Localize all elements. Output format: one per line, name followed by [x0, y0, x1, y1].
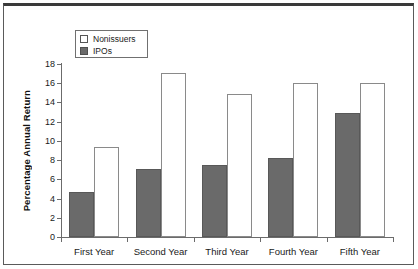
y-tick-label: 14 — [45, 97, 55, 107]
chart-legend: Nonissuers IPOs — [75, 30, 148, 58]
y-tick-label: 8 — [50, 155, 55, 165]
x-tick-mark — [61, 237, 62, 242]
x-tick-mark — [194, 237, 195, 242]
y-tick-label: 10 — [45, 136, 55, 146]
y-tick-mark — [57, 102, 62, 103]
y-tick-label: 6 — [50, 174, 55, 184]
y-tick-label: 16 — [45, 78, 55, 88]
bar-ipos-second-year — [136, 169, 161, 237]
y-tick-mark — [57, 218, 62, 219]
x-axis-line — [61, 237, 393, 238]
y-axis-title: Percentage Annual Return — [19, 64, 33, 237]
y-tick-label: 4 — [50, 194, 55, 204]
filled-square-swatch-icon — [80, 47, 88, 55]
y-tick-mark — [57, 64, 62, 65]
bar-nonissuers-second-year — [161, 73, 186, 237]
bar-ipos-fifth-year — [335, 113, 360, 237]
y-tick-label: 18 — [45, 59, 55, 69]
legend-item-ipos: IPOs — [80, 46, 143, 56]
bar-ipos-third-year — [202, 165, 227, 237]
bar-nonissuers-fourth-year — [293, 83, 318, 237]
y-tick-label: 12 — [45, 117, 55, 127]
open-square-swatch-icon — [80, 35, 88, 43]
x-category-label: Third Year — [205, 246, 248, 257]
legend-item-nonissuers: Nonissuers — [80, 34, 143, 44]
y-tick-label: 0 — [50, 232, 55, 242]
x-category-label: First Year — [74, 246, 114, 257]
y-tick-mark — [57, 141, 62, 142]
y-tick-mark — [57, 199, 62, 200]
bar-nonissuers-fifth-year — [360, 83, 385, 237]
bar-nonissuers-third-year — [227, 94, 252, 237]
legend-label-ipos: IPOs — [93, 47, 112, 56]
bar-nonissuers-first-year — [94, 147, 119, 237]
bar-chart-figure: Percentage Annual Return Nonissuers IPOs… — [0, 0, 418, 269]
y-tick-mark — [57, 122, 62, 123]
y-tick-mark — [57, 179, 62, 180]
y-tick-mark — [57, 160, 62, 161]
x-tick-mark — [393, 237, 394, 242]
bar-ipos-fourth-year — [268, 158, 293, 237]
y-tick-mark — [57, 83, 62, 84]
legend-label-nonissuers: Nonissuers — [93, 35, 136, 44]
x-tick-mark — [127, 237, 128, 242]
x-category-label: Fourth Year — [269, 246, 318, 257]
y-axis-title-text: Percentage Annual Return — [21, 90, 32, 211]
x-category-label: Second Year — [134, 246, 188, 257]
x-category-label: Fifth Year — [340, 246, 380, 257]
bar-ipos-first-year — [69, 192, 94, 237]
y-tick-label: 2 — [50, 213, 55, 223]
x-tick-mark — [260, 237, 261, 242]
y-axis-line — [61, 63, 62, 238]
plot-area: 024681012141618 First YearSecond YearThi… — [61, 64, 393, 237]
x-tick-mark — [327, 237, 328, 242]
